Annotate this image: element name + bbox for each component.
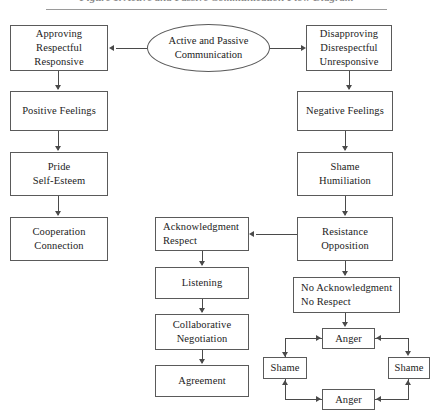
connector-resistance-to-acknowledgment [256,234,297,235]
node-resistance-line2: Opposition [321,239,369,253]
node-resistance-line1: Resistance [322,225,368,239]
arrowhead-agreement-icon [199,359,205,364]
node-cooperation-line1: Cooperation [32,225,85,239]
node-collaborative-line2: Negotiation [177,332,228,346]
node-root-line2: Communication [175,48,243,62]
node-listening-line1: Listening [182,276,223,290]
node-collaborative-line1: Collaborative [173,318,231,332]
node-approving-respectful-responsive: Approving Respectful Responsive [10,25,108,71]
node-resistance-opposition: Resistance Opposition [297,217,393,261]
arrowhead-resistance-icon [342,211,348,216]
arrowhead-root-to-positive-icon [109,45,114,51]
node-no-acknowledgment-no-respect: No Acknowledgment No Respect [293,277,400,313]
arrowhead-cooperation-icon [55,211,61,216]
arrowhead-shame-right-icon [405,351,411,356]
arrowhead-acknowledgment-icon [249,231,254,237]
connector-root-to-positive [116,48,147,49]
node-negative-start-line2: Disrespectful [320,41,377,55]
node-cooperation-line2: Connection [34,239,83,253]
node-anger-bottom: Anger [322,389,375,410]
node-negative-feelings-line1: Negative Feelings [306,104,384,118]
node-shame-left: Shame [263,357,307,379]
node-shame-humiliation: Shame Humiliation [297,152,393,196]
node-collaborative-negotiation: Collaborative Negotiation [155,314,249,350]
arrowhead-into-anger-bottom-left-icon [316,396,321,402]
arrowhead-listening-icon [199,261,205,266]
node-positive-start-line1: Approving [36,27,82,41]
arrowhead-collaborative-icon [199,308,205,313]
node-positive-feelings-line1: Positive Feelings [22,104,96,118]
node-anger-top-line1: Anger [335,332,362,346]
connector-root-to-negative [270,48,301,49]
node-anger-bottom-line1: Anger [335,393,362,407]
arrowhead-no-acknowledgment-icon [342,271,348,276]
arrowhead-negative-feelings-icon [346,85,352,90]
node-cooperation-connection: Cooperation Connection [10,217,108,261]
page-title-clipped: Figure 1. Active and Passive Communicati… [46,0,387,3]
node-listening: Listening [155,267,249,299]
node-shame-humiliation-line2: Humiliation [319,174,371,188]
arrowhead-into-anger-top-right-icon [376,335,381,341]
node-positive-start-line3: Responsive [34,55,83,69]
node-positive-feelings: Positive Feelings [10,91,108,131]
node-shame-right-line1: Shame [394,361,423,375]
node-pride-self-esteem: Pride Self-Esteem [10,152,108,196]
arrowhead-into-anger-top-left-icon [316,335,321,341]
node-acknowledgment-line2: Respect [163,234,197,248]
node-acknowledgment-respect: Acknowledgment Respect [155,217,249,251]
node-positive-start-line2: Respectful [36,41,82,55]
node-shame-humiliation-line1: Shame [330,160,359,174]
arrowhead-into-shame-left-top-icon [282,352,288,357]
node-pride-line2: Self-Esteem [33,174,85,188]
node-negative-feelings: Negative Feelings [297,91,393,131]
node-disapproving-disrespectful-unresponsive: Disapproving Disrespectful Unresponsive [306,25,392,71]
node-agreement: Agreement [155,365,249,397]
node-active-passive-communication: Active and Passive Communication [147,24,270,72]
diagram-canvas: Figure 1. Active and Passive Communicati… [0,0,433,414]
arrowhead-pride-icon [55,146,61,151]
header-divider [46,9,387,10]
node-acknowledgment-line1: Acknowledgment [163,220,239,234]
arrowhead-into-shame-right-bottom-icon [405,380,411,385]
node-agreement-line1: Agreement [178,374,226,388]
node-no-acknowledgment-line1: No Acknowledgment [301,281,392,295]
arrowhead-shame-humiliation-icon [342,146,348,151]
node-shame-left-line1: Shame [270,361,299,375]
node-negative-start-line3: Unresponsive [320,55,379,69]
node-root-line1: Active and Passive [169,34,249,48]
arrowhead-anger-top-icon [342,322,348,327]
node-negative-start-line1: Disapproving [320,27,378,41]
node-pride-line1: Pride [48,160,71,174]
node-anger-top: Anger [322,328,375,349]
page-title-text: Figure 1. Active and Passive Communicati… [46,0,387,3]
arrowhead-shame-left-bottom-icon [282,380,288,385]
node-shame-right: Shame [388,357,430,379]
arrowhead-anger-bottom-right-icon [376,396,381,402]
node-no-acknowledgment-line2: No Respect [301,295,351,309]
arrowhead-positive-feelings-icon [55,85,61,90]
